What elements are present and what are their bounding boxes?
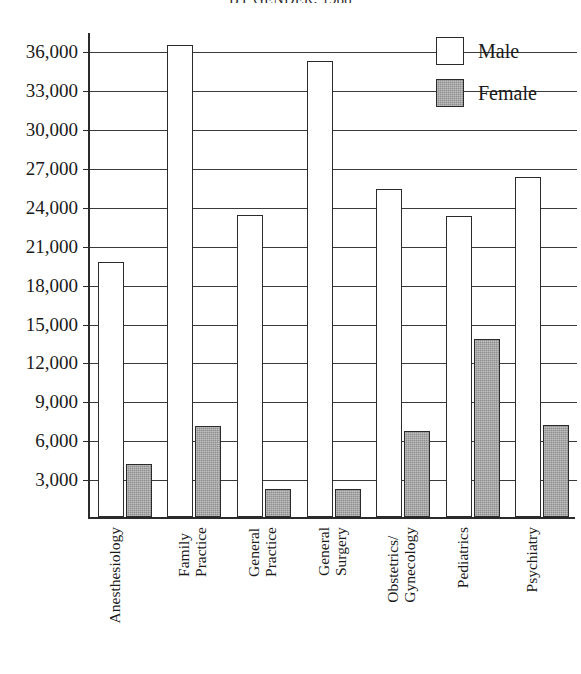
x-axis-category-label: Psychiatry — [524, 527, 541, 592]
legend-label-female: Female — [478, 82, 537, 105]
y-axis-tick — [83, 52, 90, 53]
x-axis-category-label: Family Practice — [176, 527, 209, 577]
y-axis-tick — [83, 130, 90, 131]
y-axis-tick-label: 15,000 — [0, 315, 78, 334]
bar-male — [376, 189, 402, 517]
x-axis-category-label: General Surgery — [316, 527, 349, 576]
y-axis-tick — [83, 286, 90, 287]
gridline — [90, 208, 577, 209]
y-axis-tick — [83, 91, 90, 92]
y-axis-tick — [83, 480, 90, 481]
y-axis-tick-label: 21,000 — [0, 237, 78, 256]
y-axis-tick-label: 33,000 — [0, 81, 78, 100]
y-axis-tick — [83, 325, 90, 326]
y-axis-tick-label: 24,000 — [0, 198, 78, 217]
legend-item-male: Male — [436, 30, 572, 72]
bar-male — [307, 61, 333, 517]
y-axis-tick-label: 30,000 — [0, 120, 78, 139]
legend-label-male: Male — [478, 40, 519, 63]
y-axis-tick-label: 36,000 — [0, 42, 78, 61]
bar-male — [98, 262, 124, 517]
bar-male — [446, 216, 472, 517]
bar-male — [515, 177, 541, 517]
bar-chart-figure: BY GENDER, 1988 3,0006,0009,00012,00015,… — [0, 0, 581, 674]
chart-title: BY GENDER, 1988 — [0, 0, 581, 3]
y-axis-tick-label: 18,000 — [0, 276, 78, 295]
x-axis-category-label: Anesthesiology — [107, 527, 124, 623]
y-axis-tick — [83, 247, 90, 248]
gridline — [90, 247, 577, 248]
legend-item-female: Female — [436, 72, 572, 114]
y-axis-tick-label: 3,000 — [0, 470, 78, 489]
gridline — [90, 169, 577, 170]
gridline — [90, 402, 577, 403]
y-axis-tick-label: 27,000 — [0, 159, 78, 178]
gridline — [90, 363, 577, 364]
gridline — [90, 130, 577, 131]
gridline — [90, 325, 577, 326]
gridline — [90, 286, 577, 287]
x-axis-category-label: Obstetrics/ Gynecology — [385, 527, 418, 603]
bar-female — [474, 339, 500, 517]
y-axis-tick-label: 12,000 — [0, 353, 78, 372]
y-axis-tick — [83, 441, 90, 442]
bar-female — [543, 425, 569, 517]
x-axis-category-label: Pediatrics — [455, 527, 472, 588]
legend-swatch-male-icon — [436, 37, 464, 65]
bar-female — [335, 489, 361, 518]
legend-swatch-female-icon — [436, 79, 464, 107]
x-axis-category-label: General Practice — [246, 527, 279, 577]
bar-male — [237, 215, 263, 517]
bar-female — [404, 431, 430, 517]
bar-male — [167, 45, 193, 517]
y-axis-tick-label: 9,000 — [0, 392, 78, 411]
chart-legend: Male Female — [436, 30, 572, 114]
y-axis-tick — [83, 169, 90, 170]
bar-female — [195, 426, 221, 517]
y-axis-tick-label: 6,000 — [0, 431, 78, 450]
gridline — [90, 441, 577, 442]
y-axis-tick — [83, 208, 90, 209]
gridline — [90, 480, 577, 481]
bar-female — [265, 489, 291, 518]
bar-female — [126, 464, 152, 517]
y-axis-tick — [83, 363, 90, 364]
y-axis-tick — [83, 402, 90, 403]
